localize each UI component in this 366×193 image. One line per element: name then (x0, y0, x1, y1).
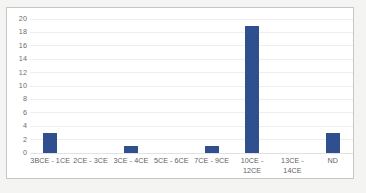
bar[interactable] (326, 133, 340, 153)
bar-slot[interactable] (70, 19, 110, 153)
x-axis-category-label: 3BCE - 1CE (30, 156, 70, 177)
y-axis-tick-label: 4 (7, 123, 27, 130)
y-axis-tick-label: 16 (7, 42, 27, 49)
chart-frame: 20181614121086420 3BCE - 1CE2CE - 3CE3CE… (6, 7, 354, 179)
y-axis-tick-label: 12 (7, 69, 27, 76)
y-axis-tick-label: 14 (7, 56, 27, 63)
bar-slot[interactable] (111, 19, 151, 153)
y-axis-tick-label: 10 (7, 82, 27, 89)
bar[interactable] (245, 26, 259, 153)
x-axis-category-label: 7CE - 9CE (192, 156, 232, 177)
y-axis-tick-label: 2 (7, 136, 27, 143)
x-axis-category-label: 2CE - 3CE (70, 156, 110, 177)
y-axis-tick-label: 20 (7, 15, 27, 22)
x-axis-category-label: ND (313, 156, 353, 177)
y-axis-tick-label: 0 (7, 149, 27, 156)
x-axis: 3BCE - 1CE2CE - 3CE3CE - 4CE5CE - 6CE7CE… (30, 156, 353, 177)
bar-slot[interactable] (232, 19, 272, 153)
x-axis-category-label: 10CE - 12CE (232, 156, 272, 177)
bar[interactable] (124, 146, 138, 153)
bar-series (30, 19, 353, 153)
x-axis-category-label: 13CE - 14CE (272, 156, 312, 177)
bar-slot[interactable] (313, 19, 353, 153)
y-axis: 20181614121086420 (7, 19, 27, 153)
bar-slot[interactable] (151, 19, 191, 153)
y-axis-tick-label: 6 (7, 109, 27, 116)
bar-slot[interactable] (272, 19, 312, 153)
y-axis-tick-label: 8 (7, 96, 27, 103)
chart-plot-wrapper: 20181614121086420 3BCE - 1CE2CE - 3CE3CE… (7, 8, 353, 178)
x-axis-category-label: 3CE - 4CE (111, 156, 151, 177)
scanned-page-background: 20181614121086420 3BCE - 1CE2CE - 3CE3CE… (0, 0, 366, 193)
bar-slot[interactable] (192, 19, 232, 153)
y-axis-tick-label: 18 (7, 29, 27, 36)
x-axis-category-label: 5CE - 6CE (151, 156, 191, 177)
bar-slot[interactable] (30, 19, 70, 153)
bar[interactable] (205, 146, 219, 153)
bar[interactable] (43, 133, 57, 153)
plot-area (30, 19, 353, 153)
